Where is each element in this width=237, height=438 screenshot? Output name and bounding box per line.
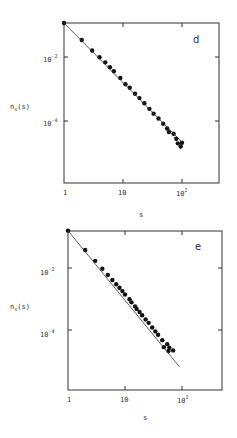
panel-d: d 10-2 10-4 ns(s) 1 10 102 s (0, 0, 237, 220)
data-point (178, 144, 182, 148)
plot-frame (68, 231, 222, 390)
fit-line (68, 231, 179, 367)
data-point (180, 140, 184, 144)
x-tick-label: 1 (67, 396, 71, 404)
data-point (114, 282, 118, 286)
data-point (153, 329, 157, 333)
data-point (117, 286, 121, 290)
plot-e (0, 220, 237, 438)
data-point (112, 69, 116, 73)
y-tick-label: 10-2 (40, 266, 54, 277)
data-point (160, 338, 164, 342)
fit-line (64, 23, 182, 142)
panel-label: d (193, 34, 199, 45)
data-point (110, 278, 114, 282)
data-point (123, 292, 127, 296)
y-tick-label: 10-4 (40, 328, 54, 339)
y-tick-label: 10-2 (43, 53, 57, 64)
x-tick-label: 1 (63, 189, 67, 197)
data-point (150, 325, 154, 329)
x-axis-label: s (139, 211, 143, 219)
data-point (133, 92, 137, 96)
data-point (103, 60, 107, 64)
data-point (123, 82, 127, 86)
data-point (108, 65, 112, 69)
data-point (143, 317, 147, 321)
data-point (167, 345, 171, 349)
y-tick-label: 10-4 (43, 117, 57, 128)
x-axis-label: s (143, 414, 147, 422)
data-point (142, 101, 146, 105)
x-tick-label: 10 (118, 189, 126, 197)
panel-label: e (195, 241, 201, 252)
x-tick-label: 10 (120, 396, 128, 404)
data-point (106, 273, 110, 277)
panel-e: e 10-2 10-4 ns(s) 1 10 102 s (0, 220, 237, 438)
x-tick-label: 102 (176, 187, 187, 198)
data-point (174, 136, 178, 140)
data-point (140, 313, 144, 317)
data-point (129, 300, 133, 304)
data-point (156, 333, 160, 337)
x-tick-label: 102 (177, 394, 188, 405)
data-point (146, 321, 150, 325)
y-axis-label: ns(s) (10, 103, 30, 112)
plot-d (0, 0, 237, 220)
data-point (161, 122, 165, 126)
y-axis-label: ns(s) (10, 303, 30, 312)
data-point (171, 348, 175, 352)
